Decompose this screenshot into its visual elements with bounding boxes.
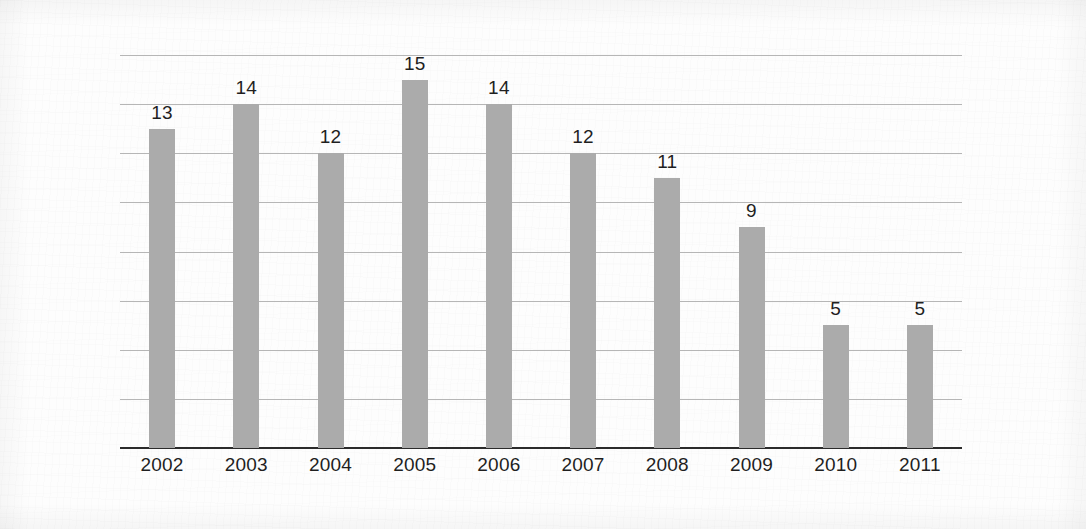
bar-value-label: 5 [890, 299, 950, 318]
bar-value-label: 11 [637, 152, 697, 171]
x-axis-category-label: 2010 [796, 455, 876, 474]
bar-value-label: 15 [385, 54, 445, 73]
bar-value-label: 9 [722, 201, 782, 220]
bar[interactable] [654, 178, 680, 448]
x-axis-category-label: 2011 [880, 455, 960, 474]
x-axis-category-label: 2008 [627, 455, 707, 474]
scanned-page: 1320021420031220041520051420061220071120… [0, 0, 1086, 529]
x-axis-category-label: 2003 [206, 455, 286, 474]
bar-value-label: 14 [469, 78, 529, 97]
x-axis-category-label: 2006 [459, 455, 539, 474]
bar[interactable] [823, 325, 849, 448]
bar-chart: 1320021420031220041520051420061220071120… [0, 0, 1086, 529]
bar-value-label: 12 [301, 127, 361, 146]
bar-value-label: 13 [132, 103, 192, 122]
gridline [120, 55, 962, 56]
bar[interactable] [149, 129, 175, 448]
bar[interactable] [570, 153, 596, 448]
x-axis-category-label: 2002 [122, 455, 202, 474]
x-axis-category-label: 2007 [543, 455, 623, 474]
bar[interactable] [233, 104, 259, 448]
x-axis-category-label: 2005 [375, 455, 455, 474]
bar[interactable] [486, 104, 512, 448]
bar[interactable] [907, 325, 933, 448]
bar-value-label: 5 [806, 299, 866, 318]
bar-value-label: 12 [553, 127, 613, 146]
bar-value-label: 14 [216, 78, 276, 97]
x-axis-category-label: 2009 [712, 455, 792, 474]
bar[interactable] [318, 153, 344, 448]
bar[interactable] [739, 227, 765, 448]
x-axis-category-label: 2004 [291, 455, 371, 474]
bar[interactable] [402, 80, 428, 448]
